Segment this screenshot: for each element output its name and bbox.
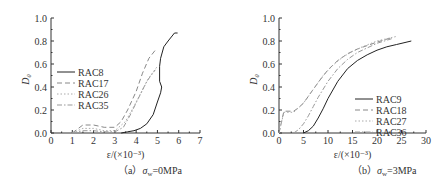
y-tick-label: 0.6 (263, 59, 276, 70)
x-tick-label: 5 (155, 135, 160, 146)
y-tick-label: 0.2 (263, 105, 276, 116)
legend-label: RAC27 (376, 116, 407, 127)
y-axis-label: D₀ (20, 74, 31, 86)
y-tick-label: 1.0 (263, 13, 276, 24)
caption-prefix: （a） (118, 165, 142, 176)
x-axis-label: ε/(×10⁻³) (107, 149, 145, 161)
x-tick-label: 0 (277, 135, 282, 146)
legend: RAC8RAC17RAC26RAC35 (57, 67, 109, 111)
figure-canvas: 0.00.20.40.60.81.001234567D₀ε/(×10⁻³)（a）… (0, 0, 448, 189)
series-line-rac8 (121, 33, 177, 133)
y-tick-label: 1.0 (35, 13, 48, 24)
x-tick-label: 5 (301, 135, 306, 146)
y-axis-label: D₀ (248, 74, 259, 86)
chart-panel-b: 0.00.20.40.60.81.0051015202530D₀ε/(×10⁻³… (248, 13, 431, 179)
legend-label: RAC17 (78, 78, 109, 89)
y-tick-label: 0.4 (35, 82, 48, 93)
legend-label: RAC36 (376, 127, 407, 138)
y-tick-label: 0.8 (35, 36, 48, 47)
x-tick-label: 30 (421, 135, 431, 146)
x-tick-label: 4 (134, 135, 139, 146)
chart-panel-a: 0.00.20.40.60.81.001234567D₀ε/(×10⁻³)（a）… (20, 13, 203, 179)
x-tick-label: 10 (323, 135, 333, 146)
y-tick-label: 0.0 (35, 128, 48, 139)
x-tick-label: 6 (176, 135, 181, 146)
x-tick-label: 1 (70, 135, 75, 146)
caption-prefix: （b） (352, 165, 377, 176)
x-tick-label: 2 (91, 135, 96, 146)
y-tick-label: 0.8 (263, 36, 276, 47)
x-tick-label: 15 (348, 135, 358, 146)
legend-label: RAC8 (78, 67, 104, 78)
legend-label: RAC9 (376, 94, 402, 105)
y-tick-label: 0.4 (263, 82, 276, 93)
x-tick-label: 7 (198, 135, 203, 146)
caption-rest: =0MPa (152, 165, 182, 176)
y-tick-label: 0.2 (35, 105, 48, 116)
x-tick-label: 0 (49, 135, 54, 146)
panel-caption: （a）σw=0MPa (118, 165, 183, 178)
caption-rest: =3MPa (387, 165, 417, 176)
legend-label: RAC35 (78, 100, 109, 111)
panel-caption: （b）σw=3MPa (352, 165, 417, 178)
y-tick-label: 0.6 (35, 59, 48, 70)
legend-label: RAC26 (78, 89, 109, 100)
x-tick-label: 3 (112, 135, 117, 146)
legend: RAC9RAC18RAC27RAC36 (355, 94, 407, 138)
legend-label: RAC18 (376, 105, 407, 116)
y-tick-label: 0.0 (263, 128, 276, 139)
x-axis-label: ε/(×10⁻³) (334, 149, 372, 161)
